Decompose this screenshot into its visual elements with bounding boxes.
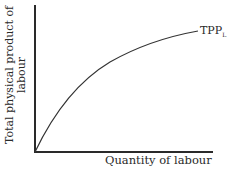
chart-plot xyxy=(0,0,230,175)
x-axis-label: Quantity of labour xyxy=(105,153,212,167)
series-label-tpp: TPPL xyxy=(200,24,226,38)
tpp-curve xyxy=(35,31,198,152)
